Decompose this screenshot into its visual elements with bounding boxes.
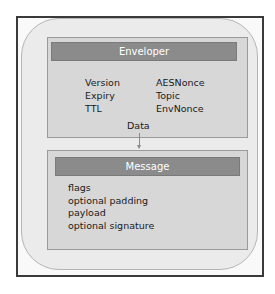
enveloper-header: Enveloper [51, 42, 237, 61]
message-header: Message [55, 157, 240, 176]
enveloper-fields-left: Version Expiry TTL [85, 76, 120, 115]
field-optional-signature: optional signature [68, 220, 154, 233]
message-fields: flags optional padding payload optional … [68, 182, 154, 232]
field-expiry: Expiry [85, 89, 120, 102]
data-arrow-head-icon [137, 145, 141, 149]
field-version: Version [85, 76, 120, 89]
field-envnonce: EnvNonce [156, 102, 205, 115]
field-optional-padding: optional padding [68, 195, 154, 208]
field-aesnonce: AESNonce [156, 76, 205, 89]
field-ttl: TTL [85, 102, 120, 115]
field-flags: flags [68, 182, 154, 195]
field-topic: Topic [156, 89, 205, 102]
data-label: Data [127, 120, 150, 132]
enveloper-fields-right: AESNonce Topic EnvNonce [156, 76, 205, 115]
field-payload: payload [68, 207, 154, 220]
